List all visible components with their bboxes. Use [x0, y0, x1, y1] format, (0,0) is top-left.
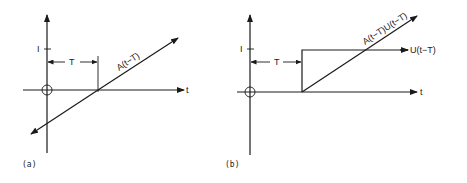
curve-label-a: A(t−T) — [115, 51, 142, 73]
panel-a: t I T A(t−T) (a) — [22, 15, 189, 169]
ramp-line-a-lower — [31, 90, 98, 134]
figure: t I T A(t−T) (a) t I T U(t−T) — [0, 0, 467, 183]
interval-label-a: T — [69, 57, 75, 67]
ramp-line-b — [302, 16, 417, 92]
y-tick-label-b: I — [240, 44, 243, 54]
x-axis-label-a: t — [186, 85, 189, 95]
caption-b: (b) — [225, 160, 239, 169]
curve-label-b: A(t−T)U(t−T) — [361, 11, 409, 47]
panel-b: t I T U(t−T) A(t−T)U(t−T) (b) — [225, 11, 436, 169]
ramp-line-a-upper — [98, 38, 178, 90]
step-label-b: U(t−T) — [410, 45, 436, 55]
y-tick-label-a: I — [37, 44, 40, 54]
x-axis-label-b: t — [420, 87, 423, 97]
caption-a: (a) — [22, 160, 36, 169]
interval-label-b: T — [274, 57, 280, 67]
